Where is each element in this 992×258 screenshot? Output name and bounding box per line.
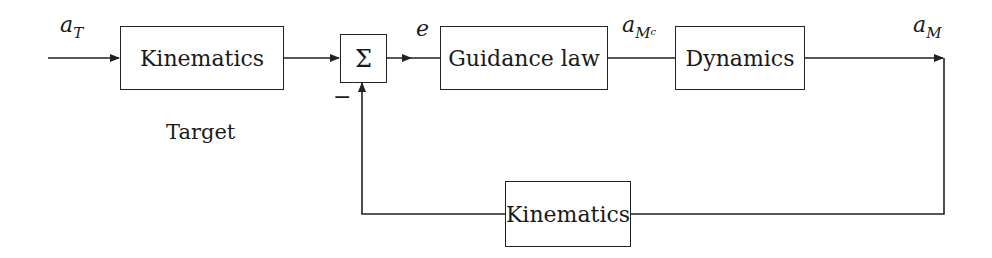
target-kinematics-label: Kinematics [140,46,264,71]
feedback-kinematics-label: Kinematics [506,202,630,227]
negative-sign-label: − [333,84,351,109]
feedback-path-left [362,83,505,214]
feedback-kinematics-block: Kinematics [505,181,631,247]
input-signal-label: aT [60,12,83,42]
sigma-icon: Σ [355,45,372,73]
error-arrow-head [402,54,412,62]
dynamics-block: Dynamics [675,26,805,90]
summing-junction-block: Σ [340,34,387,83]
guidance-law-block: Guidance law [440,26,608,90]
target-kinematics-block: Kinematics [120,26,284,90]
output-signal-label: aM [913,12,941,42]
target-caption: Target [166,120,235,144]
error-signal-label: e [416,16,429,41]
command-signal-label: aMc [622,12,656,42]
dynamics-label: Dynamics [686,46,795,71]
guidance-law-label: Guidance law [448,46,599,71]
